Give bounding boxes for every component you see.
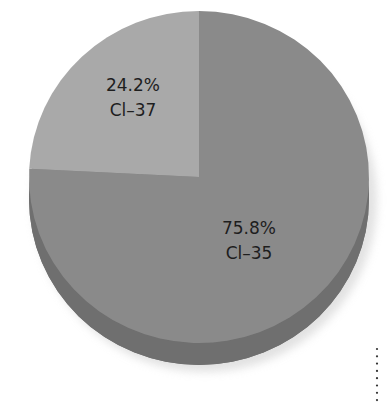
- pie-slices-group: [29, 11, 369, 343]
- marker-dot: [376, 355, 378, 357]
- slice-label-cl35-percent: 75.8%: [222, 218, 276, 238]
- marker-dot: [376, 384, 378, 386]
- marker-dot: [376, 392, 378, 394]
- pie-chart: 24.2% Cl–37 75.8% Cl–35: [0, 0, 389, 407]
- slice-label-cl37-name: Cl–37: [110, 100, 157, 120]
- marker-dot: [376, 377, 378, 379]
- marker-dot: [376, 348, 378, 350]
- dotted-marker: [376, 348, 378, 401]
- marker-dot: [376, 370, 378, 372]
- slice-label-cl37-percent: 24.2%: [106, 75, 160, 95]
- marker-dot: [376, 363, 378, 365]
- marker-dot: [376, 399, 378, 401]
- slice-label-cl35-name: Cl–35: [226, 243, 273, 263]
